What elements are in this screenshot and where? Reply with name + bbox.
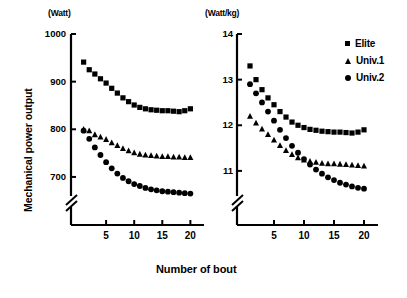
data-point-circle bbox=[325, 174, 331, 180]
figure-root: Mechanical power output Number of bout (… bbox=[0, 0, 407, 298]
data-point-triangle bbox=[337, 161, 343, 167]
data-point-triangle bbox=[349, 162, 355, 168]
data-point-circle bbox=[349, 184, 355, 190]
data-point-square bbox=[355, 130, 360, 135]
data-point-square bbox=[343, 130, 348, 135]
triangle-marker-icon bbox=[345, 58, 351, 64]
data-point-triangle bbox=[283, 147, 289, 153]
data-point-square bbox=[331, 130, 336, 135]
series-univ-2 bbox=[247, 81, 367, 191]
data-point-triangle bbox=[277, 142, 283, 148]
data-point-square bbox=[337, 130, 342, 135]
data-point-triangle bbox=[343, 161, 349, 167]
data-point-circle bbox=[259, 100, 265, 106]
data-point-square bbox=[247, 63, 252, 68]
data-point-square bbox=[271, 102, 276, 107]
legend-item-label: Univ.1 bbox=[356, 55, 384, 66]
data-point-circle bbox=[301, 156, 307, 162]
data-point-triangle bbox=[313, 159, 319, 165]
data-point-triangle bbox=[253, 120, 259, 126]
data-point-triangle bbox=[271, 137, 277, 143]
data-point-triangle bbox=[289, 151, 295, 157]
data-point-square bbox=[289, 119, 294, 124]
data-point-triangle bbox=[325, 160, 331, 166]
data-point-triangle bbox=[331, 160, 337, 166]
legend-item-label: Elite bbox=[355, 38, 375, 49]
data-point-triangle bbox=[319, 160, 325, 166]
data-point-square bbox=[313, 128, 318, 133]
data-point-square bbox=[259, 87, 264, 92]
data-point-triangle bbox=[259, 126, 265, 132]
data-point-square bbox=[325, 129, 330, 134]
data-point-triangle bbox=[265, 131, 271, 137]
series-univ-1 bbox=[247, 113, 367, 169]
data-point-triangle bbox=[247, 113, 253, 119]
data-point-square bbox=[301, 125, 306, 130]
data-point-triangle bbox=[355, 162, 361, 168]
circle-marker-icon bbox=[345, 75, 351, 81]
data-point-circle bbox=[289, 143, 295, 149]
data-point-square bbox=[277, 109, 282, 114]
data-point-circle bbox=[343, 182, 349, 188]
data-point-circle bbox=[247, 81, 253, 87]
data-point-circle bbox=[271, 118, 277, 124]
data-point-circle bbox=[361, 186, 367, 192]
legend-item-label: Univ.2 bbox=[356, 72, 384, 83]
data-point-circle bbox=[313, 167, 319, 173]
data-point-circle bbox=[283, 135, 289, 141]
data-point-square bbox=[319, 129, 324, 134]
legend-item-univ-1[interactable]: Univ.1 bbox=[345, 55, 384, 66]
data-point-circle bbox=[355, 185, 361, 191]
data-point-square bbox=[361, 127, 366, 132]
data-point-square bbox=[283, 114, 288, 119]
data-point-triangle bbox=[361, 163, 367, 169]
data-point-square bbox=[265, 95, 270, 100]
data-point-square bbox=[349, 130, 354, 135]
data-point-circle bbox=[331, 177, 337, 183]
data-point-circle bbox=[319, 171, 325, 177]
legend-item-elite[interactable]: Elite bbox=[345, 38, 375, 49]
data-point-circle bbox=[307, 162, 313, 168]
data-point-circle bbox=[253, 90, 259, 96]
data-point-circle bbox=[265, 109, 271, 115]
square-marker-icon bbox=[345, 41, 350, 46]
data-point-circle bbox=[295, 150, 301, 156]
legend-item-univ-2[interactable]: Univ.2 bbox=[345, 72, 384, 83]
data-point-square bbox=[295, 123, 300, 128]
data-point-circle bbox=[337, 180, 343, 186]
data-point-square bbox=[253, 77, 258, 82]
data-point-square bbox=[307, 127, 312, 132]
data-point-circle bbox=[277, 127, 283, 133]
